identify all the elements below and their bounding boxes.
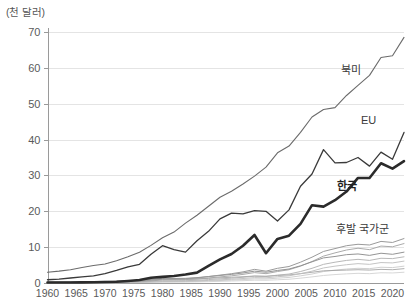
x-tick-label-1970: 1970 (93, 287, 117, 299)
line-chart-plot: 010203040506070 196019651970197519801985… (0, 0, 410, 302)
y-tick-label-60: 60 (28, 62, 40, 74)
x-tick-label-1985: 1985 (180, 287, 204, 299)
x-tick-label-2010: 2010 (323, 287, 347, 299)
x-tick-label-1975: 1975 (122, 287, 146, 299)
series-label-0: 북미 (341, 64, 361, 76)
x-tick-label-1990: 1990 (208, 287, 232, 299)
x-tick-label-1965: 1965 (65, 287, 89, 299)
y-tick-label-20: 20 (28, 205, 40, 217)
x-tick-label-2005: 2005 (295, 287, 319, 299)
y-tick-label-40: 40 (28, 134, 40, 146)
x-tick-label-2020: 2020 (381, 287, 405, 299)
series-annotations: 북미EU한국후발 국가군 (336, 64, 389, 235)
x-axis-tick-labels: 1960196519701975198019851990199520002005… (36, 287, 405, 299)
x-tick-label-1980: 1980 (151, 287, 175, 299)
series-label-2: 한국 (337, 179, 357, 192)
y-tick-label-10: 10 (28, 241, 40, 253)
series-line-other-4 (48, 244, 405, 283)
x-tick-label-2015: 2015 (352, 287, 376, 299)
x-tick-label-2000: 2000 (266, 287, 290, 299)
y-tick-label-30: 30 (28, 169, 40, 181)
x-tick-label-1995: 1995 (237, 287, 261, 299)
x-tick-label-1960: 1960 (36, 287, 60, 299)
series-label-1: EU (361, 114, 376, 126)
chart-container: (천 달러) 010203040506070 19601965197019751… (0, 0, 410, 302)
y-tick-label-70: 70 (28, 26, 40, 38)
series-label-3: 후발 국가군 (336, 223, 389, 235)
y-axis-tick-labels: 010203040506070 (28, 26, 40, 289)
y-tick-label-50: 50 (28, 98, 40, 110)
